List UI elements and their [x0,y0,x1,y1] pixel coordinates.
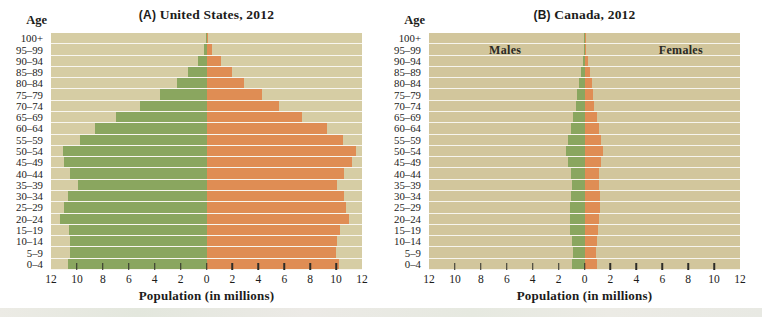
panel-b-x-tick-label: 6 [659,272,665,286]
panel-a-bar-males-25–29 [64,202,207,212]
panel-b-x-tick-labels: 12108642024681012 [429,272,740,286]
panel-a-age-label: 25–29 [0,202,47,213]
panel-b-bar-males-40–44 [571,168,585,178]
panel-a-age-label: 80–84 [0,78,47,89]
panel-a-age-label: 60–64 [0,123,47,134]
panel-a-x-tick [102,263,104,270]
panel-a-bar-males-45–49 [64,157,207,167]
panel-a-x-tick [335,263,337,270]
panel-b-bar-males-55–59 [568,135,584,145]
panel-a-bar-females-75–79 [207,89,263,99]
panel-b-bar-females-55–59 [585,135,602,145]
panel-b-bar-males-25–29 [570,202,584,212]
panel-a-row-40–44 [51,168,362,179]
panel-b-bar-males-30–34 [571,191,585,201]
panel-a-bar-females-90–94 [207,56,221,66]
panel-b-bar-females-70–74 [585,101,595,111]
panel-b-x-tick [636,263,638,270]
panel-a-bar-females-35–39 [207,180,338,190]
panel-a-row-75–79 [51,89,362,100]
panel-a-row-10–14 [51,236,362,247]
panel-a-bar-males-85–89 [188,67,206,77]
panel-b-bar-females-65–69 [585,112,597,122]
panel-b-row-85–89 [429,67,740,78]
panel-b-x-tick-label: 8 [478,272,484,286]
panel-b-plot-area: MalesFemales [429,33,740,270]
panel-b-row-80–84 [429,78,740,89]
panel-a-row-90–94 [51,56,362,67]
panel-b-row-5–9 [429,247,740,258]
panel-b-age-label: 95–99 [381,44,425,55]
panel-b-bar-males-5–9 [573,247,585,257]
panel-a-bar-males-5–9 [70,247,206,257]
panel-b-bar-females-85–89 [585,67,590,77]
panel-a-bar-males-90–94 [198,56,206,66]
panel-a-x-tick-labels: 12108642024681012 [51,272,362,286]
panel-a-bar-females-100+ [207,33,209,43]
panel-b-bar-females-45–49 [585,157,601,167]
panel-a-bar-females-85–89 [207,67,233,77]
panel-a-bar-males-20–24 [60,214,206,224]
panel-a-letter: (A) [139,8,156,22]
panel-a-x-tick [154,263,156,270]
panel-a-bar-females-70–74 [207,101,280,111]
panel-canada: (B) Canada, 2012 Age 100+95–9990–9485–89… [381,0,762,317]
panel-b-age-label: 60–64 [381,123,425,134]
panel-a-bar-males-10–14 [70,236,206,246]
panel-a-bar-males-65–69 [116,112,207,122]
panel-b-bar-males-0–4 [572,259,584,269]
panel-a-bar-females-60–64 [207,123,328,133]
panel-b-x-tick-label: 10 [708,272,720,286]
panel-a-x-tick [76,263,78,270]
panel-a-row-45–49 [51,157,362,168]
panel-b-bar-females-5–9 [585,247,597,257]
panel-b-bar-males-70–74 [576,101,585,111]
panel-b-bar-females-60–64 [585,123,600,133]
panel-a-bar-females-55–59 [207,135,343,145]
panel-a-x-tick-label: 4 [255,272,261,286]
panel-a-age-label: 45–49 [0,157,47,168]
panel-a-bar-females-30–34 [207,191,344,201]
panel-b-bar-females-35–39 [585,180,600,190]
panel-b-x-tick [532,263,534,270]
panel-b-x-tick-label: 10 [449,272,461,286]
panel-a-bar-males-0–4 [68,259,207,269]
page-bottom-strip [0,308,762,317]
panel-a-x-tick [232,263,234,270]
panel-b-bar-females-20–24 [585,214,600,224]
panel-a-row-25–29 [51,202,362,213]
panel-b-row-70–74 [429,101,740,112]
panel-b-series-label-males: Males [489,43,521,58]
panel-a-x-tick-label: 0 [204,272,210,286]
panel-a-bar-males-15–19 [69,225,206,235]
panel-b-row-40–44 [429,168,740,179]
panel-a-row-30–34 [51,191,362,202]
panel-a-age-label: 75–79 [0,89,47,100]
panel-b-x-tick [454,263,456,270]
panel-a-x-tick-label: 8 [307,272,313,286]
panel-b-bar-females-80–84 [585,78,592,88]
panel-b-x-tick-label: 2 [556,272,562,286]
panel-a-row-95–99 [51,44,362,55]
panel-a-x-tick [284,263,286,270]
panel-b-age-label: 0–4 [381,259,425,270]
panel-b-x-tick-label: 4 [530,272,536,286]
panel-a-x-tick [180,263,182,270]
panel-a-row-80–84 [51,78,362,89]
panel-b-x-tick-label: 8 [685,272,691,286]
panel-b-bar-females-30–34 [585,191,600,201]
panel-b-letter: (B) [533,8,550,22]
panel-b-bar-males-50–54 [566,146,584,156]
panel-a-bar-females-40–44 [207,168,344,178]
panel-b-row-65–69 [429,112,740,123]
panel-a-bar-females-50–54 [207,146,356,156]
panel-b-row-60–64 [429,123,740,134]
panel-b-age-label: 80–84 [381,78,425,89]
panel-b-bar-females-0–4 [585,259,598,269]
panel-b-x-axis-title: Population (in millions) [429,288,740,304]
panel-a-row-60–64 [51,123,362,134]
panel-a-row-50–54 [51,146,362,157]
panel-b-bar-females-90–94 [585,56,588,66]
panel-a-title: (A) United States, 2012 [51,7,362,25]
panel-a-age-label: 40–44 [0,168,47,179]
